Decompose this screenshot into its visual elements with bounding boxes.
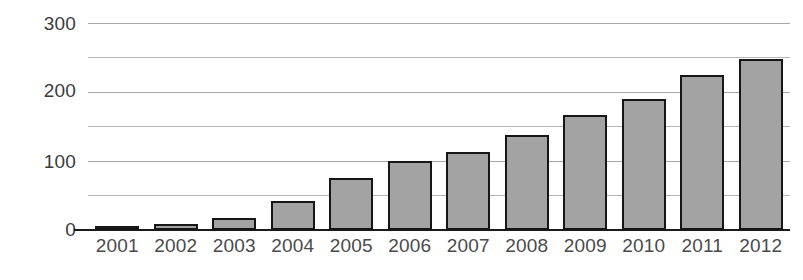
x-tick-label-2004: 2004	[264, 236, 323, 255]
bar-2005	[329, 178, 373, 230]
x-tick-label-2012: 2012	[732, 236, 791, 255]
x-tick-label-2009: 2009	[556, 236, 615, 255]
x-tick-label-2002: 2002	[147, 236, 206, 255]
x-tick-label-2008: 2008	[498, 236, 557, 255]
y-tick-label-0: 0	[12, 220, 76, 239]
bar-2004	[271, 201, 315, 230]
x-tick-label-2011: 2011	[673, 236, 732, 255]
y-axis-labels: 300 200 100 0	[0, 0, 76, 280]
y-tick-label-200: 200	[12, 81, 76, 100]
bar-2001	[95, 226, 139, 230]
x-tick-label-2007: 2007	[439, 236, 498, 255]
x-tick-label-2005: 2005	[322, 236, 381, 255]
bar-2008	[505, 135, 549, 230]
x-tick-label-2010: 2010	[615, 236, 674, 255]
bar-2006	[388, 161, 432, 230]
bar-2009	[563, 115, 607, 230]
x-tick-label-2001: 2001	[88, 236, 147, 255]
y-tick-label-300: 300	[12, 14, 76, 33]
x-tick-label-2006: 2006	[381, 236, 440, 255]
y-tick-label-100: 100	[12, 152, 76, 171]
x-axis-labels: 2001200220032004200520062007200820092010…	[88, 236, 790, 266]
bar-chart: 300 200 100 0 20012002200320042005200620…	[0, 0, 803, 280]
bar-2010	[622, 99, 666, 230]
x-tick-label-2003: 2003	[205, 236, 264, 255]
bar-2002	[154, 224, 198, 230]
bar-2003	[212, 218, 256, 230]
bars-layer	[88, 0, 790, 231]
bar-2011	[680, 75, 724, 230]
bar-2007	[446, 152, 490, 230]
bar-2012	[739, 59, 783, 230]
